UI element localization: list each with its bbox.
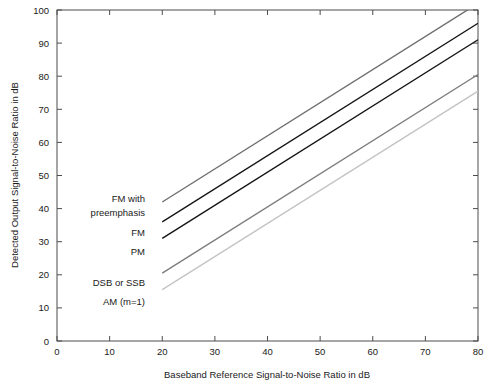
- y-tick-label: 90: [38, 38, 49, 49]
- y-tick-label: 10: [38, 302, 49, 313]
- curve-annotation-label: AM (m=1): [103, 296, 145, 307]
- plot-frame: [57, 10, 478, 341]
- curve-annotation-label: FM: [131, 227, 145, 238]
- curve-annotations: FM withpreemphasisFMPMDSB or SSBAM (m=1): [91, 193, 146, 307]
- curve-annotation-label: DSB or SSB: [93, 277, 145, 288]
- curve-annotation-label: preemphasis: [91, 207, 146, 218]
- x-tick-label: 30: [210, 346, 221, 357]
- y-tick-label: 40: [38, 203, 49, 214]
- curve-annotation-label: PM: [131, 246, 145, 257]
- y-tick-label: 0: [44, 336, 49, 347]
- y-axis-title: Detected Output Signal-to-Noise Ratio in…: [9, 82, 20, 268]
- y-tick-label: 100: [33, 5, 49, 16]
- series-line: [162, 23, 478, 222]
- series-line: [162, 75, 478, 274]
- y-tick-label: 80: [38, 71, 49, 82]
- x-tick-label: 50: [315, 346, 326, 357]
- series-line: [162, 91, 478, 290]
- x-tick-label: 70: [420, 346, 431, 357]
- x-tick-label: 10: [104, 346, 115, 357]
- series-line: [162, 40, 478, 239]
- y-axis-ticks: 0102030405060708090100: [33, 5, 478, 347]
- y-tick-label: 20: [38, 269, 49, 280]
- y-tick-label: 70: [38, 104, 49, 115]
- y-tick-label: 30: [38, 236, 49, 247]
- x-tick-label: 40: [262, 346, 273, 357]
- y-tick-label: 60: [38, 137, 49, 148]
- x-tick-label: 0: [54, 346, 59, 357]
- x-tick-label: 20: [157, 346, 168, 357]
- series-line: [162, 3, 478, 202]
- curve-annotation-label: FM with: [112, 193, 145, 204]
- y-tick-label: 50: [38, 170, 49, 181]
- line-chart: 0102030405060708090100 01020304050607080…: [0, 0, 499, 386]
- x-axis-title: Baseband Reference Signal-to-Noise Ratio…: [164, 369, 370, 380]
- x-tick-label: 80: [473, 346, 484, 357]
- series-group: [162, 3, 478, 289]
- figure-canvas: 0102030405060708090100 01020304050607080…: [0, 0, 499, 386]
- x-tick-label: 60: [367, 346, 378, 357]
